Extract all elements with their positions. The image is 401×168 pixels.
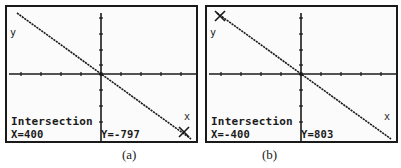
caption-b: (b) [262, 147, 277, 163]
intersection-title: Intersection [11, 115, 93, 128]
y-readout: Y=803 [301, 128, 334, 140]
y-axis-label: y [210, 27, 216, 38]
trace-cursor-icon [215, 11, 225, 21]
x-axis-label: x [184, 111, 190, 122]
intersection-title: Intersection [211, 115, 293, 128]
x-readout: X=400 [11, 128, 44, 140]
x-axis-label: x [384, 111, 390, 122]
x-readout: X=-400 [211, 128, 250, 140]
origin-point [99, 72, 103, 76]
caption-a: (a) [122, 147, 136, 163]
y-readout: Y=-797 [101, 128, 140, 140]
origin-point [299, 72, 303, 76]
calculator-screen-a: y x Intersection X=400 Y=-797 [5, 5, 198, 143]
y-axis-label: y [10, 27, 16, 38]
calculator-screen-b: y x Intersection X=-400 Y=803 [205, 5, 398, 143]
